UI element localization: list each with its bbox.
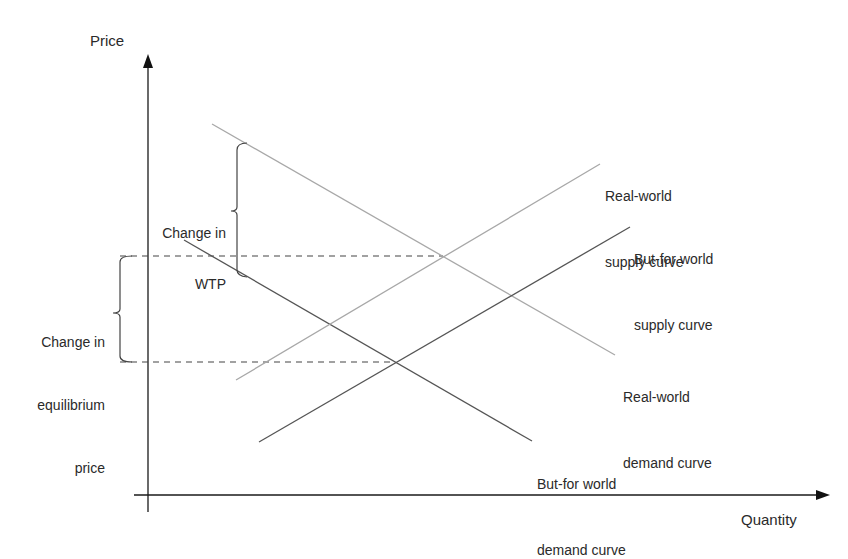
but-for-demand-curve [184,240,532,441]
change-in-equilibrium-price-bracket [113,256,132,362]
change-in-wtp-line1: Change in [140,225,226,242]
x-axis-arrow-icon [816,490,830,500]
change-in-eq-line3: price [10,458,105,479]
change-in-wtp-line2: WTP [140,276,226,293]
change-in-eq-line1: Change in [10,332,105,353]
but-for-supply-line1: But-for world [634,248,713,270]
change-in-wtp-bracket [231,143,247,277]
but-for-supply-line2: supply curve [634,314,713,336]
real-world-demand-line1: Real-world [623,386,712,408]
but-for-demand-line2: demand curve [537,539,626,559]
y-axis-arrow-icon [143,54,153,68]
change-in-equilibrium-price-label: Change in equilibrium price [10,290,105,500]
but-for-supply-curve [259,227,630,442]
but-for-supply-label: But-for world supply curve [634,204,713,358]
real-world-demand-label: Real-world demand curve [623,342,712,496]
change-in-wtp-label: Change in WTP [140,191,226,310]
change-in-eq-line2: equilibrium [10,395,105,416]
x-axis-label: Quantity [741,511,797,528]
real-world-demand-curve [212,124,615,355]
y-axis-label: Price [90,32,124,49]
but-for-demand-label: But-for world demand curve [537,429,626,559]
real-world-demand-line2: demand curve [623,452,712,474]
but-for-demand-line1: But-for world [537,473,626,495]
real-world-supply-curve [236,164,600,380]
